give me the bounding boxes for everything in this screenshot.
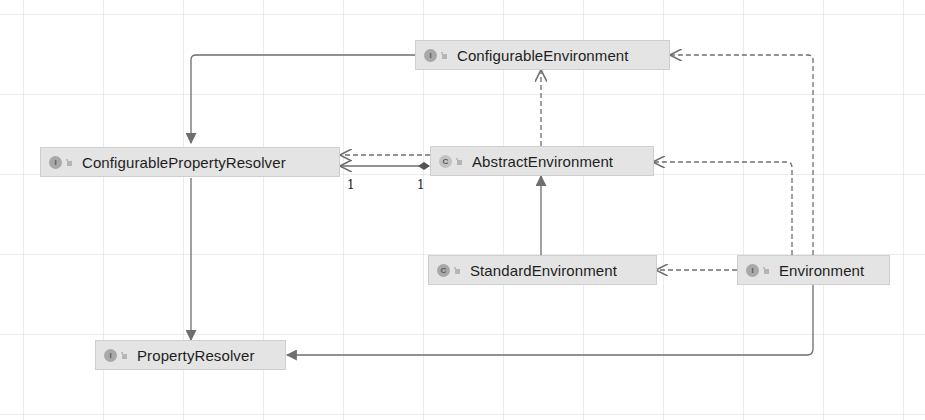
node-environment[interactable]: I Environment bbox=[737, 255, 890, 285]
node-configurable-property-resolver[interactable]: I ConfigurablePropertyResolver bbox=[40, 147, 340, 177]
node-label: AbstractEnvironment bbox=[472, 153, 613, 170]
node-label: ConfigurablePropertyResolver bbox=[82, 154, 286, 171]
visibility-icon bbox=[456, 158, 463, 165]
interface-icon: I bbox=[49, 156, 62, 169]
edge-environment-to-abstract-environment bbox=[654, 162, 792, 255]
multiplicity-label-target: 1 bbox=[347, 178, 355, 192]
node-property-resolver[interactable]: I PropertyResolver bbox=[95, 340, 286, 370]
visibility-icon bbox=[121, 352, 128, 359]
visibility-icon bbox=[763, 267, 770, 274]
edge-configurable-environment-to-configurable-property-resolver bbox=[191, 55, 415, 143]
visibility-icon bbox=[454, 267, 461, 274]
node-configurable-environment[interactable]: I ConfigurableEnvironment bbox=[415, 40, 670, 70]
node-abstract-environment[interactable]: C AbstractEnvironment bbox=[430, 146, 654, 176]
interface-icon: I bbox=[746, 264, 759, 277]
edge-environment-to-configurable-environment bbox=[671, 55, 813, 255]
visibility-icon bbox=[66, 159, 73, 166]
node-standard-environment[interactable]: C StandardEnvironment bbox=[428, 255, 657, 285]
multiplicity-label-source: 1 bbox=[417, 178, 425, 192]
node-label: ConfigurableEnvironment bbox=[457, 47, 629, 64]
edge-environment-to-property-resolver bbox=[287, 285, 813, 355]
node-label: StandardEnvironment bbox=[470, 262, 617, 279]
node-label: PropertyResolver bbox=[137, 347, 254, 364]
abstract-class-icon: C bbox=[439, 155, 452, 168]
visibility-icon bbox=[441, 52, 448, 59]
interface-icon: I bbox=[104, 349, 117, 362]
class-icon: C bbox=[437, 264, 450, 277]
interface-icon: I bbox=[424, 49, 437, 62]
node-label: Environment bbox=[779, 262, 864, 279]
